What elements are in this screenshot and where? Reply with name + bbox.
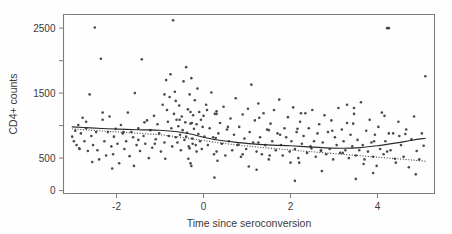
- data-point: [191, 122, 194, 125]
- data-point: [98, 158, 101, 161]
- data-point: [247, 165, 250, 168]
- data-point: [168, 96, 171, 99]
- data-point: [279, 133, 282, 136]
- data-point: [105, 154, 108, 157]
- data-point: [255, 168, 258, 171]
- data-point: [144, 143, 147, 146]
- data-point: [135, 144, 138, 147]
- plot-canvas: -2024 050015002500 Time since seroconver…: [0, 0, 452, 234]
- data-point: [283, 127, 286, 130]
- data-point: [379, 148, 382, 151]
- data-point: [261, 153, 264, 156]
- data-point: [170, 127, 173, 130]
- data-point: [353, 107, 356, 110]
- data-point: [179, 133, 182, 136]
- data-point: [134, 92, 137, 95]
- data-point: [96, 149, 99, 152]
- data-point: [388, 27, 391, 30]
- data-point: [92, 144, 95, 147]
- data-point: [269, 122, 272, 125]
- data-point: [201, 148, 204, 151]
- data-point: [300, 112, 303, 115]
- data-point: [77, 124, 80, 127]
- data-point: [71, 135, 74, 138]
- data-point: [184, 121, 187, 124]
- data-point: [213, 176, 216, 179]
- data-point: [238, 126, 241, 129]
- data-point: [257, 141, 260, 144]
- data-point: [153, 115, 156, 118]
- data-point: [165, 79, 168, 82]
- data-point: [304, 112, 307, 115]
- data-point: [188, 93, 191, 96]
- x-tick-label: 2: [288, 201, 294, 212]
- data-point: [111, 167, 114, 170]
- data-point: [197, 133, 200, 136]
- data-point: [337, 107, 340, 110]
- data-point: [90, 135, 93, 138]
- data-point: [140, 58, 143, 61]
- data-point: [137, 139, 140, 142]
- data-point: [180, 149, 183, 152]
- data-point: [189, 162, 192, 165]
- data-point: [202, 115, 205, 118]
- data-point: [219, 122, 222, 125]
- data-point: [306, 152, 309, 155]
- data-point: [367, 150, 370, 153]
- data-point: [88, 93, 91, 96]
- data-point: [212, 136, 215, 139]
- data-point: [229, 117, 232, 120]
- data-point: [182, 80, 185, 83]
- data-point: [215, 150, 218, 153]
- data-point: [171, 145, 174, 148]
- data-point: [353, 113, 356, 116]
- data-point: [348, 157, 351, 160]
- data-point: [198, 111, 201, 114]
- data-point: [262, 112, 265, 115]
- data-point: [373, 140, 376, 143]
- data-point: [194, 99, 197, 102]
- x-tick-label: -2: [112, 201, 121, 212]
- data-point: [287, 116, 290, 119]
- data-point: [178, 104, 181, 107]
- data-point: [128, 155, 131, 158]
- data-point: [368, 118, 371, 121]
- data-point: [147, 157, 150, 160]
- data-point: [103, 140, 106, 143]
- data-point: [110, 145, 113, 148]
- data-point: [388, 132, 391, 135]
- data-point: [321, 170, 324, 173]
- data-point: [424, 75, 427, 78]
- data-point: [346, 122, 349, 125]
- data-point: [210, 91, 213, 94]
- data-point: [91, 161, 94, 164]
- data-point: [188, 147, 191, 150]
- data-point: [195, 150, 198, 153]
- data-point: [245, 148, 248, 151]
- x-tick-label: 0: [201, 201, 207, 212]
- data-point: [397, 120, 400, 123]
- data-point: [125, 140, 128, 143]
- data-point: [164, 157, 167, 160]
- data-point: [142, 135, 145, 138]
- data-point: [139, 150, 142, 153]
- data-point: [200, 118, 203, 121]
- data-point: [192, 114, 195, 117]
- data-point: [217, 132, 220, 135]
- data-point: [342, 140, 345, 143]
- data-point: [108, 115, 111, 118]
- data-point: [123, 148, 126, 151]
- data-point: [330, 119, 333, 122]
- data-point: [156, 123, 159, 126]
- data-point: [175, 118, 178, 121]
- data-point: [151, 146, 154, 149]
- data-point: [363, 158, 366, 161]
- data-point: [301, 143, 304, 146]
- data-point: [194, 144, 197, 147]
- data-point: [214, 137, 217, 140]
- data-point: [408, 166, 411, 169]
- data-point: [74, 130, 77, 133]
- data-point: [81, 117, 84, 120]
- data-point: [298, 161, 301, 164]
- data-point: [295, 131, 298, 134]
